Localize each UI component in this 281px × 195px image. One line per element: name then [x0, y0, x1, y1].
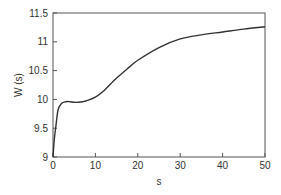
series-line	[53, 27, 265, 157]
y-tick-label: 11	[38, 36, 49, 47]
plot-frame	[53, 13, 265, 157]
x-axis-label: s	[157, 176, 162, 187]
x-tick-label: 30	[175, 160, 187, 171]
line-chart: 99.51010.51111.5 01020304050 s W (s)	[0, 0, 281, 195]
y-tick-label: 9.5	[34, 123, 48, 134]
y-tick-label: 11.5	[29, 8, 48, 19]
x-axis-ticks: 01020304050	[50, 153, 271, 171]
x-tick-label: 20	[132, 160, 144, 171]
y-tick-label: 10	[37, 94, 49, 105]
x-tick-label: 40	[217, 160, 229, 171]
x-tick-label: 50	[259, 160, 271, 171]
x-tick-label: 10	[90, 160, 102, 171]
y-tick-label: 10.5	[29, 65, 49, 76]
x-tick-label: 0	[50, 160, 56, 171]
y-tick-label: 9	[42, 152, 48, 163]
y-axis-label: W (s)	[13, 73, 24, 97]
